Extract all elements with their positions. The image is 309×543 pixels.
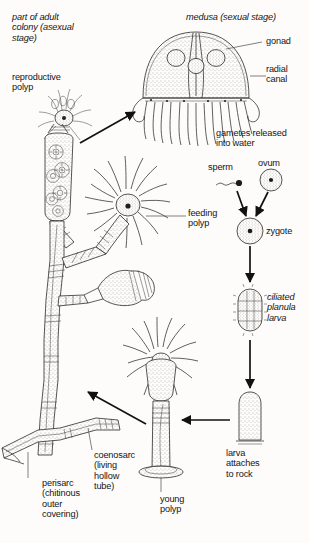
label-feeding-polyp: feeding polyp [188,208,238,229]
arrow-sperm-to-zygote [237,191,246,216]
label-larva-attaches: larva attaches to rock [226,448,276,479]
planula-illustration [233,284,267,336]
attached-larva-illustration [236,392,264,444]
arrow-polyp-to-medusa [80,112,135,143]
label-zygote: zygote [266,226,292,236]
label-radial-canal: radial canal [266,64,308,85]
zygote-illustration [237,218,263,244]
reproductive-polyp-illustration [38,89,92,248]
feeding-polyp-illustration [85,156,186,254]
label-ovum: ovum [258,158,280,168]
colony-stalk-illustration [2,221,120,478]
label-planula: ciliated planula larva [267,292,309,323]
sperm-illustration [216,180,242,186]
ovum-illustration [260,169,282,191]
label-young-polyp: young polyp [160,494,204,515]
label-coenosarc: coenosarc (living hollow tube) [94,450,146,492]
arrow-ovum-to-zygote [256,192,268,216]
label-gonad: gonad [266,36,291,46]
label-reproductive-polyp: reproductive polyp [12,72,100,93]
life-cycle-diagram: part of adult colony (asexual stage) rep… [0,0,309,543]
label-sperm: sperm [208,162,233,172]
gonangium-bud-illustration [84,270,154,306]
label-adult-colony: part of adult colony (asexual stage) [12,12,104,43]
label-perisarc: perisarc (chitinous outer covering) [42,478,100,520]
label-medusa: medusa (sexual stage) [186,12,306,22]
label-gametes-released: gametes released into water [216,128,309,149]
